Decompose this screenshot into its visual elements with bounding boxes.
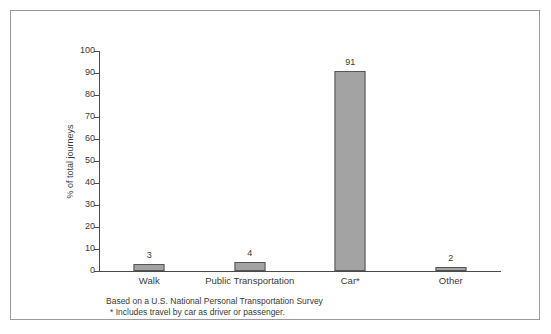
y-tick-label: 50 [85, 155, 95, 166]
x-category-label: Walk [139, 275, 160, 287]
y-tick-label: 20 [85, 221, 95, 232]
y-axis-title: % of total journeys [63, 51, 77, 271]
bar [435, 267, 466, 271]
bar [134, 264, 165, 271]
bar-group: 91 [300, 51, 401, 271]
bar-value-label: 91 [345, 57, 355, 68]
figure: % of total journeys 10090807060504030201… [0, 0, 551, 334]
y-tick-label: 60 [85, 133, 95, 144]
bar [335, 71, 366, 271]
bar-value-label: 3 [147, 250, 152, 261]
bar-value-label: 4 [247, 248, 252, 259]
y-tick-label: 90 [85, 67, 95, 78]
y-tick-label: 0 [90, 265, 95, 276]
bar-group: 3 [99, 51, 200, 271]
figure-frame: % of total journeys 10090807060504030201… [10, 10, 540, 320]
y-axis-title-label: % of total journeys [65, 124, 76, 198]
bar-value-label: 2 [448, 253, 453, 264]
y-tick-label: 100 [80, 45, 95, 56]
y-tick-label: 70 [85, 111, 95, 122]
bar-group: 2 [401, 51, 502, 271]
footnotes: Based on a U.S. National Personal Transp… [106, 296, 323, 318]
footnote-source: Based on a U.S. National Personal Transp… [106, 296, 323, 307]
x-category-label: Public Transportation [205, 275, 294, 287]
plot-area: 1009080706050403020100 34912 [99, 51, 501, 271]
y-tick-label: 10 [85, 243, 95, 254]
y-tick-label: 40 [85, 177, 95, 188]
y-tick-label: 80 [85, 89, 95, 100]
y-tick-label: 30 [85, 199, 95, 210]
bar [234, 262, 265, 271]
footnote-car-note: * Includes travel by car as driver or pa… [106, 307, 323, 318]
bar-group: 4 [200, 51, 301, 271]
x-axis-line [99, 271, 501, 272]
x-category-label: Other [439, 275, 463, 287]
x-category-label: Car* [341, 275, 360, 287]
